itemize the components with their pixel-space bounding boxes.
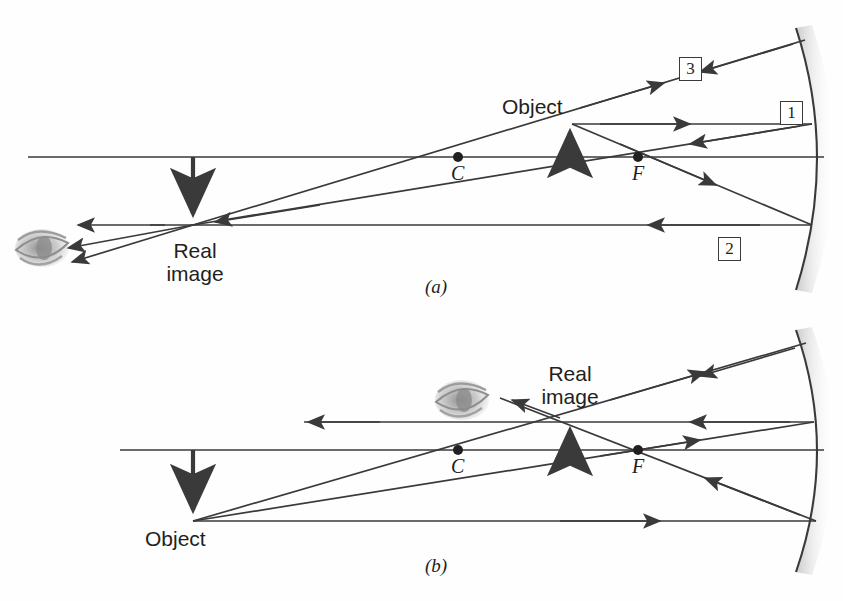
ray-1-reflected-arrow-b bbox=[705, 478, 800, 515]
center-of-curvature-dot-b bbox=[453, 445, 463, 455]
eye-icon-b bbox=[435, 380, 489, 420]
ray-label-3-a: 3 bbox=[679, 57, 702, 81]
ray-3-b bbox=[193, 343, 806, 521]
ray-label-1-a: 1 bbox=[780, 101, 803, 125]
panel-b bbox=[120, 327, 834, 575]
center-of-curvature-dot-a bbox=[453, 152, 463, 162]
object-label-a: Object bbox=[502, 95, 563, 118]
ray-diagram-svg bbox=[0, 0, 843, 601]
image-label-a-line2: image bbox=[145, 262, 245, 285]
ray-2-incident-b bbox=[193, 422, 814, 521]
panel-a bbox=[15, 25, 834, 293]
image-label-b-line1: Real bbox=[510, 362, 630, 385]
center-label-b: C bbox=[451, 455, 464, 478]
focal-point-dot-b bbox=[633, 445, 643, 455]
ray-3-arrow-out-a bbox=[580, 83, 664, 108]
image-label-a-line1: Real bbox=[145, 239, 245, 262]
image-label-b-line2: image bbox=[510, 385, 630, 408]
caption-b: (b) bbox=[425, 555, 447, 577]
center-label-a: C bbox=[451, 162, 464, 185]
focus-label-b: F bbox=[632, 455, 644, 478]
ray-3-arrow-in-a bbox=[700, 44, 793, 72]
ray-1-reflected-arrow-a bbox=[690, 126, 800, 144]
mirror-shadow-b bbox=[796, 327, 834, 575]
focus-label-a: F bbox=[632, 162, 644, 185]
caption-a: (a) bbox=[425, 276, 447, 298]
object-label-b: Object bbox=[145, 527, 206, 550]
eye-icon-a bbox=[15, 229, 69, 267]
mirror-shadow-a bbox=[796, 25, 834, 293]
ray-label-2-a: 2 bbox=[718, 237, 741, 261]
ray-3-arrow-in-b bbox=[700, 348, 795, 376]
figure-root: Object Real image C F 1 2 3 (a) Real ima… bbox=[0, 0, 843, 601]
focal-point-dot-a bbox=[633, 152, 643, 162]
